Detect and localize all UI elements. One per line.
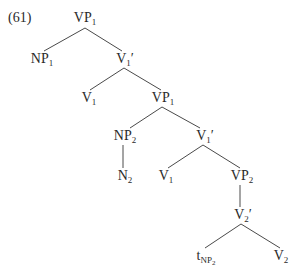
- edge-v2bar-v2: [241, 224, 280, 248]
- edge-root-v1bar: [85, 28, 122, 51]
- tree-edges: [0, 0, 296, 274]
- edge-root-np1: [44, 28, 85, 51]
- node-v1: V1: [82, 90, 97, 110]
- node-np2: NP2: [114, 128, 136, 148]
- edge-vp1-np2: [130, 107, 162, 128]
- edge-v2bar-trace: [205, 224, 241, 248]
- syntax-tree: (61) VP1 NP1 V1′ V1 VP1 NP2 V1′ N2 V1 VP…: [0, 0, 296, 274]
- node-vp2: VP2: [231, 168, 253, 188]
- example-number: (61): [8, 10, 31, 26]
- node-vp1-root: VP1: [74, 10, 96, 30]
- edge-v1bar-v1: [90, 68, 124, 90]
- node-vp1: VP1: [152, 90, 174, 110]
- node-v1-bar-lower: V1′: [196, 128, 214, 148]
- node-np1: NP1: [31, 51, 53, 71]
- edge-v1bar-v1: [168, 145, 203, 168]
- node-v2-bar: V2′: [234, 207, 252, 227]
- edge-v1bar-vp2: [203, 145, 240, 168]
- node-v2: V2: [274, 248, 289, 268]
- node-v1-bar: V1′: [116, 51, 134, 71]
- edge-v1bar-vp1: [124, 68, 161, 90]
- node-trace-np2: tNP2: [197, 248, 216, 271]
- edge-vp1-v1bar: [162, 107, 200, 128]
- node-n2: N2: [118, 168, 133, 188]
- node-v1-lower: V1: [159, 168, 174, 188]
